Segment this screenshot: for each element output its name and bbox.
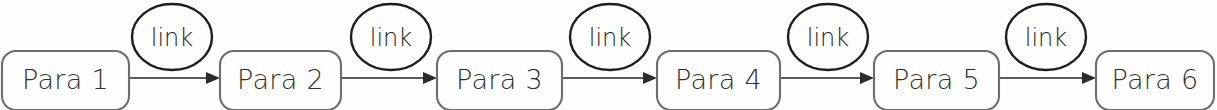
node-label: Para 2	[237, 64, 324, 95]
node-label: Para 5	[893, 64, 980, 95]
diagram-canvas: Para 1 Para 2 Para 3 Para 4 Para 5 Para …	[0, 0, 1217, 110]
node-para-4[interactable]: Para 4	[657, 51, 780, 110]
node-para-5[interactable]: Para 5	[874, 51, 999, 110]
edge-connector	[341, 72, 437, 84]
edge-connector	[999, 72, 1096, 84]
link-label: link	[1025, 24, 1068, 52]
arrowhead-icon	[643, 72, 657, 84]
arrowhead-icon	[423, 72, 437, 84]
arrowhead-icon	[860, 72, 874, 84]
link-node[interactable]: link	[570, 4, 650, 70]
link-node[interactable]: link	[351, 4, 431, 70]
link-node[interactable]: link	[788, 4, 868, 70]
link-label: link	[151, 24, 194, 52]
node-para-1[interactable]: Para 1	[2, 51, 129, 110]
node-label: Para 3	[456, 64, 543, 95]
arrowhead-icon	[206, 72, 220, 84]
node-para-2[interactable]: Para 2	[220, 51, 341, 110]
node-para-3[interactable]: Para 3	[437, 51, 562, 110]
node-label: Para 6	[1112, 64, 1199, 95]
edge-connector	[780, 72, 874, 84]
node-label: Para 4	[675, 64, 762, 95]
link-node[interactable]: link	[132, 4, 212, 70]
link-label: link	[370, 24, 413, 52]
node-para-6[interactable]: Para 6	[1096, 51, 1214, 110]
link-label: link	[589, 24, 632, 52]
edge-connector	[129, 72, 220, 84]
link-node[interactable]: link	[1006, 4, 1086, 70]
flowchart-diagram: Para 1 Para 2 Para 3 Para 4 Para 5 Para …	[0, 0, 1217, 110]
link-label: link	[807, 24, 850, 52]
arrowhead-icon	[1082, 72, 1096, 84]
edge-connector	[562, 72, 657, 84]
node-label: Para 1	[22, 64, 109, 95]
